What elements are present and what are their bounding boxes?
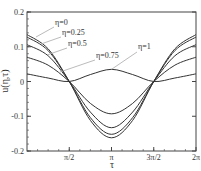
x-axis-label: τ: [110, 159, 114, 170]
line-chart: 0.20.10-0.1-0.2 π/2π3π/22π u(η,τ) τ η=0η…: [0, 0, 201, 171]
series-annotation-label: η=0: [55, 18, 68, 27]
series-annotation-label: η=0.5: [68, 39, 87, 48]
series-annotation-label: η=0.25: [62, 28, 85, 37]
annotation-leader-lines: [36, 27, 137, 72]
series-line: [27, 69, 196, 81]
leader-line: [60, 60, 95, 72]
y-tick-label: 0.1: [14, 43, 24, 52]
leader-line: [36, 27, 54, 37]
leader-line: [41, 37, 61, 44]
series-annotation-label: η=0.75: [96, 51, 119, 60]
series-annotations: η=0η=0.25η=0.5η=0.75η=1: [55, 18, 151, 60]
y-axis-ticks: 0.20.10-0.1-0.2: [11, 8, 196, 156]
series-line: [27, 57, 196, 114]
x-tick-label: π/2: [64, 153, 74, 162]
series-annotation-label: η=1: [138, 42, 151, 51]
x-tick-label: 2π: [192, 153, 200, 162]
x-axis-ticks: π/2π3π/22π: [38, 147, 200, 162]
y-axis-label: u(η,τ): [0, 69, 11, 92]
y-tick-label: 0: [20, 78, 24, 87]
plot-frame: [27, 12, 196, 151]
y-tick-label: 0.2: [14, 8, 24, 17]
y-tick-label: -0.2: [11, 147, 24, 156]
y-tick-label: -0.1: [11, 112, 24, 121]
x-tick-label: 3π/2: [147, 153, 161, 162]
